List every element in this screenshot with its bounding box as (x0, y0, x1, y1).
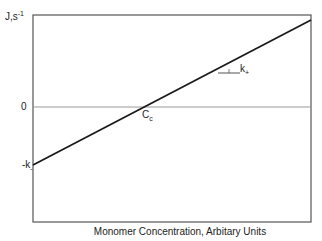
critical-concentration-label: Cc (142, 110, 153, 121)
y-tick-zero: 0 (21, 102, 27, 112)
slope-k-plus-label: k+ (240, 64, 249, 75)
x-axis-label: Monomer Concentration, Arbitary Units (0, 227, 322, 237)
y-tick-negative-k: -k- (22, 160, 33, 171)
y-axis-label: J,s-1 (5, 12, 24, 23)
plot-frame (33, 15, 311, 222)
data-line-series (33, 20, 311, 165)
slope-marker (218, 69, 240, 73)
chart-plot-area (0, 0, 322, 241)
